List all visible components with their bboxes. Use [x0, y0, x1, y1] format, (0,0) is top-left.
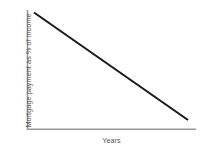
data-series-line — [34, 13, 188, 121]
chart-figure: Mortgage payment as % of income Years — [0, 0, 205, 151]
y-axis-label: Mortgage payment as % of income — [22, 8, 36, 133]
x-axis-label: Years — [27, 136, 196, 146]
